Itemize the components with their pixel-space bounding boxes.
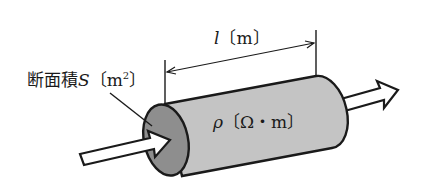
resistivity-label: ρ〔Ω・m〕	[213, 114, 304, 131]
cross-section-leader-line	[110, 93, 152, 126]
resistor-diagram: 断面積S〔m2〕 l〔m〕 ρ〔Ω・m〕	[0, 0, 424, 191]
length-label: l〔m〕	[214, 30, 270, 47]
area-unit-close: 〕	[129, 70, 146, 90]
area-unit-open: 〔m	[90, 70, 123, 90]
diagram-graphics	[0, 0, 424, 191]
resistivity-symbol: ρ	[213, 112, 223, 132]
area-symbol: S	[78, 70, 90, 90]
length-unit: 〔m〕	[219, 28, 269, 48]
resistivity-unit: 〔Ω・m〕	[223, 112, 304, 132]
cross-section-label: 断面積S〔m2〕	[27, 71, 146, 89]
cross-section-text: 断面積	[27, 70, 78, 90]
